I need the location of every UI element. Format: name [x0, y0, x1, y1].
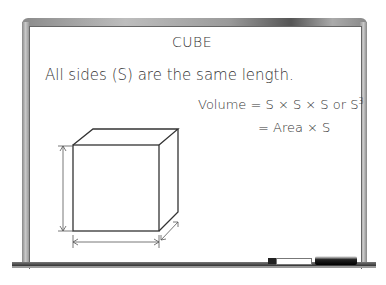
- eraser-icon[interactable]: [315, 256, 357, 265]
- cube-side-face: [159, 129, 178, 231]
- marker-icon[interactable]: [268, 258, 310, 264]
- height-arrow: [58, 146, 73, 231]
- tray-shadow: [12, 266, 376, 268]
- cube-top-face: [73, 129, 178, 145]
- depth-arrow: [161, 222, 178, 240]
- width-arrow: [73, 235, 159, 248]
- cube-diagram: [0, 0, 386, 285]
- marker-body: [276, 258, 312, 265]
- cube-shape: [73, 129, 178, 231]
- cube-front-face: [73, 145, 159, 231]
- marker-cap: [268, 258, 276, 264]
